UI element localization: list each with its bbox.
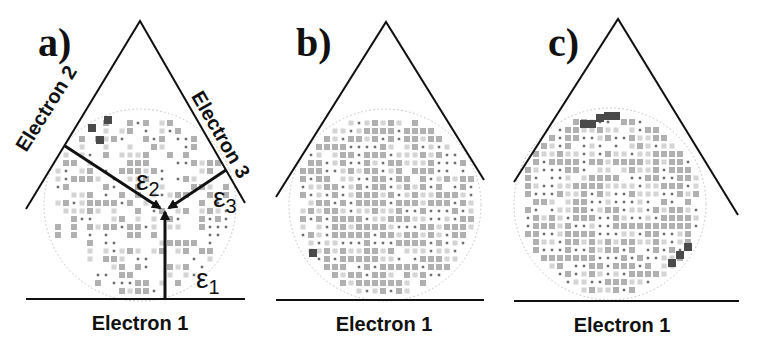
histogram-cell [558, 208, 563, 213]
histogram-cell [623, 137, 626, 140]
histogram-cell [381, 121, 386, 126]
histogram-cell [71, 160, 77, 166]
histogram-cell [302, 234, 305, 237]
histogram-cell [454, 218, 457, 221]
histogram-cell [566, 200, 571, 205]
histogram-cell [105, 194, 108, 197]
histogram-cell [438, 170, 441, 173]
histogram-cell [301, 209, 306, 214]
histogram-cell [452, 192, 458, 198]
histogram-cell [573, 199, 579, 205]
histogram-cell [207, 160, 213, 166]
histogram-cell [605, 135, 611, 141]
histogram-cell [333, 241, 338, 246]
histogram-cell [398, 226, 401, 229]
histogram-cell [655, 145, 658, 148]
histogram-cell [364, 200, 370, 206]
histogram-cell [317, 153, 322, 158]
histogram-cell [557, 191, 563, 197]
histogram-cell [677, 207, 683, 213]
histogram-cell [613, 279, 619, 285]
histogram-cell [445, 145, 450, 150]
histogram-cell [550, 264, 555, 269]
histogram-cell [87, 208, 93, 214]
histogram-cell [412, 144, 418, 150]
histogram-cell [199, 248, 205, 254]
epsilon-3-label: ε3 [213, 182, 237, 217]
histogram-cell [340, 152, 346, 158]
histogram-cell [589, 231, 595, 237]
histogram-cell [404, 136, 410, 142]
histogram-cell [167, 216, 173, 222]
histogram-cell [364, 248, 370, 254]
histogram-cell [145, 258, 148, 261]
histogram-cell [56, 169, 61, 174]
histogram-cell [653, 167, 659, 173]
histogram-cell [388, 216, 394, 222]
histogram-cell [565, 255, 571, 261]
histogram-cell [340, 264, 346, 270]
histogram-cell [65, 170, 68, 173]
histogram-cell [89, 154, 92, 157]
histogram-cell [366, 218, 369, 221]
histogram-cell [372, 256, 378, 262]
histogram-cell [590, 224, 595, 229]
histogram-cell [573, 255, 579, 261]
histogram-cell [559, 273, 562, 276]
histogram-cell [64, 153, 69, 158]
histogram-cell [454, 250, 457, 253]
histogram-cell [565, 159, 571, 165]
histogram-cell [413, 249, 418, 254]
histogram-cell [168, 193, 173, 198]
histogram-cell [646, 240, 651, 245]
histogram-cell [558, 184, 563, 189]
histogram-cell [436, 152, 442, 158]
histogram-cell [373, 161, 378, 166]
histogram-cell [661, 151, 667, 157]
histogram-cell [661, 215, 667, 221]
histogram-cell [340, 224, 346, 230]
histogram-cell [183, 152, 189, 158]
histogram-cell [598, 136, 603, 141]
histogram-cell [309, 201, 314, 206]
histogram-cell [607, 257, 610, 260]
histogram-cell [581, 183, 587, 189]
histogram-cell [646, 216, 651, 221]
histogram-cell [405, 281, 410, 286]
histogram-cell [65, 178, 68, 181]
histogram-cell [372, 224, 378, 230]
histogram-cell [606, 168, 611, 173]
histogram-cell [104, 249, 109, 254]
histogram-cell [630, 128, 635, 133]
axis-label: Electron 3 [187, 87, 254, 182]
histogram-cell [694, 216, 699, 221]
histogram-cell [623, 273, 626, 276]
histogram-cell [583, 225, 586, 228]
histogram-cell [373, 289, 378, 294]
histogram-cell [365, 137, 370, 142]
histogram-cell [381, 249, 386, 254]
histogram-cell [645, 127, 651, 133]
histogram-cell [445, 249, 450, 254]
histogram-cell [622, 168, 627, 173]
histogram-cell [389, 209, 394, 214]
histogram-cell [357, 289, 362, 294]
histogram-cell [543, 233, 546, 236]
histogram-cell [56, 201, 61, 206]
histogram-cells [300, 120, 474, 294]
histogram-cell [669, 183, 675, 189]
histogram-cell [326, 170, 329, 173]
histogram-cell [199, 200, 205, 206]
histogram-cell [591, 137, 594, 140]
histogram-cell [55, 232, 61, 238]
histogram-cell [405, 161, 410, 166]
histogram-cell [414, 258, 417, 261]
histogram-cell [300, 176, 306, 182]
histogram-cell [436, 264, 442, 270]
histogram-cell [557, 159, 563, 165]
histogram-cell [621, 255, 627, 261]
histogram-cell [332, 144, 338, 150]
histogram-cell [176, 249, 181, 254]
histogram-cell [349, 225, 354, 230]
histogram-cell [685, 167, 691, 173]
